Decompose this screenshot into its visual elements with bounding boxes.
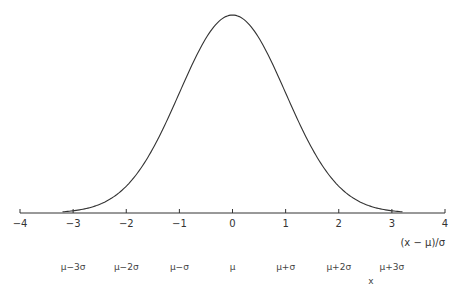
sigma-label: μ−2σ xyxy=(114,262,139,272)
x-axis-label: (x − μ)/σ xyxy=(400,237,445,248)
x-tick-label: −4 xyxy=(13,218,28,229)
x-tick-label: −2 xyxy=(119,218,134,229)
x-tick-label: 4 xyxy=(442,218,448,229)
sigma-label: μ−3σ xyxy=(61,262,86,272)
x-tick-label: 1 xyxy=(282,218,288,229)
x-tick-label: −1 xyxy=(172,218,187,229)
sigma-label: μ+3σ xyxy=(380,262,405,272)
sigma-label: μ−σ xyxy=(170,262,189,272)
sigma-label: μ xyxy=(230,262,236,272)
x-tick-label: 0 xyxy=(229,218,235,229)
x-tick-label: 2 xyxy=(336,218,342,229)
normal-distribution-chart: −4−3−2−101234 μ−3σμ−2σμ−σμμ+σμ+2σμ+3σ (x… xyxy=(0,0,461,294)
sigma-label: μ+σ xyxy=(276,262,295,272)
sigma-label: μ+2σ xyxy=(326,262,351,272)
x-variable-label: x xyxy=(368,276,374,286)
x-tick-labels: −4−3−2−101234 xyxy=(13,218,449,229)
sigma-labels: μ−3σμ−2σμ−σμμ+σμ+2σμ+3σ xyxy=(61,262,405,272)
x-tick-label: 3 xyxy=(389,218,395,229)
normal-curve xyxy=(63,15,403,212)
x-tick-label: −3 xyxy=(66,218,81,229)
